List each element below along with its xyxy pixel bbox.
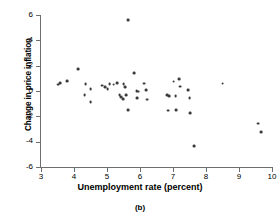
x-tick-label: 5 — [105, 172, 109, 181]
y-tick-label: -2 — [26, 111, 33, 120]
data-point — [221, 82, 224, 85]
data-point — [145, 89, 148, 92]
x-tick-label: 10 — [268, 172, 277, 181]
data-point — [115, 82, 118, 85]
y-tick: 2 — [36, 66, 40, 67]
data-point — [167, 109, 170, 112]
data-point — [84, 83, 87, 86]
data-point — [89, 101, 92, 104]
data-point — [146, 98, 149, 101]
y-tick-label: 0 — [29, 86, 33, 95]
y-tick: 0 — [36, 91, 40, 92]
panel-caption: (b) — [0, 203, 280, 212]
data-point — [83, 94, 86, 97]
data-point — [168, 94, 171, 97]
data-point — [127, 108, 130, 111]
y-tick: -2 — [36, 116, 40, 117]
data-point — [179, 85, 182, 88]
scatter-plot-figure: Change in price inflation -6-4-20246 345… — [0, 0, 280, 220]
data-point — [127, 19, 130, 22]
data-point — [174, 95, 177, 98]
x-tick-label: 3 — [39, 172, 43, 181]
data-point — [143, 82, 146, 85]
x-tick-label: 6 — [138, 172, 142, 181]
data-point — [133, 72, 136, 75]
data-point — [186, 89, 189, 92]
y-tick: -4 — [36, 142, 40, 143]
y-tick-label: 2 — [29, 60, 33, 69]
data-point — [101, 84, 104, 87]
data-point — [188, 97, 191, 100]
data-point — [172, 80, 175, 83]
x-axis-label: Unemployment rate (percent) — [0, 182, 280, 192]
data-point — [59, 82, 62, 85]
data-point — [108, 83, 111, 86]
data-point — [136, 97, 139, 100]
data-point — [65, 80, 68, 83]
data-point — [77, 68, 80, 71]
y-tick: 4 — [36, 40, 40, 41]
plot-area: -6-4-20246 345678910 — [41, 15, 272, 167]
y-tick-label: -6 — [26, 162, 33, 171]
data-point — [193, 145, 196, 148]
x-tick-label: 7 — [171, 172, 175, 181]
data-point — [189, 111, 192, 114]
y-axis-line — [40, 15, 41, 168]
data-point — [260, 131, 263, 134]
data-point — [178, 78, 181, 81]
x-tick-label: 8 — [204, 172, 208, 181]
y-tick-label: 6 — [29, 10, 33, 19]
y-tick: -6 — [36, 167, 40, 168]
data-point — [106, 87, 109, 90]
data-point — [89, 88, 92, 91]
x-tick-label: 9 — [237, 172, 241, 181]
data-point — [137, 90, 140, 93]
y-tick-label: -4 — [26, 136, 33, 145]
data-point — [121, 97, 124, 100]
y-tick: 6 — [36, 15, 40, 16]
x-tick-label: 4 — [72, 172, 76, 181]
data-point — [257, 122, 260, 125]
y-tick-label: 4 — [29, 35, 33, 44]
data-point — [125, 93, 128, 96]
data-point — [175, 109, 178, 112]
data-point — [124, 86, 127, 89]
